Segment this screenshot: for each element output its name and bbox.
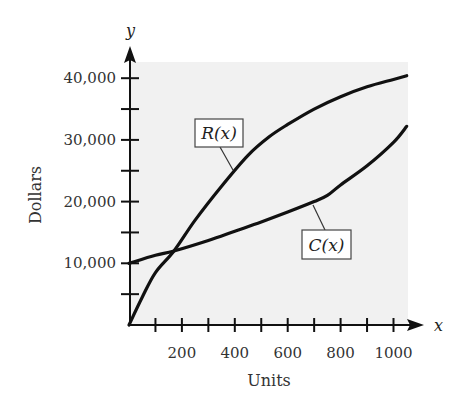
plot-background (131, 62, 408, 325)
x-tick-label: 200 (168, 344, 197, 362)
x-axis-variable: x (434, 316, 443, 335)
cost-revenue-chart: 2004006008001000 10,00020,00030,00040,00… (0, 0, 463, 408)
y-tick-label: 30,000 (64, 131, 117, 149)
y-tick-label: 10,000 (64, 254, 117, 272)
y-tick-label: 40,000 (64, 69, 117, 87)
y-axis-ticks: 10,00020,00030,00040,000 (64, 69, 140, 294)
y-axis-title: Dollars (26, 166, 45, 224)
x-tick-label: 800 (326, 344, 355, 362)
x-tick-label: 400 (220, 344, 249, 362)
curve-label: R(x) (200, 123, 237, 143)
y-tick-label: 20,000 (64, 193, 117, 211)
x-tick-label: 1000 (374, 344, 412, 362)
x-axis-title: Units (247, 371, 291, 390)
y-axis-variable: y (125, 21, 136, 40)
x-tick-label: 600 (273, 344, 302, 362)
curve-label: C(x) (309, 235, 345, 255)
